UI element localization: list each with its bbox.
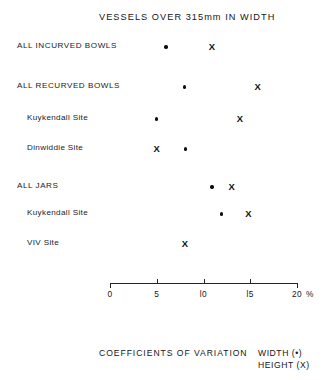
width-dot-marker xyxy=(159,39,173,55)
axis-tick xyxy=(204,279,205,284)
width-dot-marker xyxy=(178,79,192,95)
x-axis-caption: COEFFICIENTS OF VARIATION xyxy=(99,348,248,358)
height-x-marker: X xyxy=(205,39,219,55)
axis-tick xyxy=(297,283,298,288)
x-icon: X xyxy=(182,239,188,248)
chart-row: Dinwiddie SiteX xyxy=(0,141,329,157)
chart-row: ALL INCURVED BOWLSX xyxy=(0,39,329,55)
axis-tick-label: l5 xyxy=(247,289,254,299)
x-icon: X xyxy=(245,209,251,218)
height-x-marker: X xyxy=(225,179,239,195)
dot-icon xyxy=(184,147,187,150)
row-label: ALL JARS xyxy=(17,181,58,190)
axis-tick xyxy=(110,283,111,288)
height-x-marker: X xyxy=(178,236,192,252)
x-icon: X xyxy=(154,144,160,153)
dot-icon xyxy=(183,85,186,88)
chart-row: Kuykendall SiteX xyxy=(0,111,329,127)
axis-tick-label: 20 xyxy=(292,289,302,299)
row-label: Kuykendall Site xyxy=(27,113,88,122)
row-label: Dinwiddie Site xyxy=(27,143,83,152)
chart-root: VESSELS OVER 315mm IN WIDTH ALL INCURVED… xyxy=(0,0,329,380)
chart-row: VIV SiteX xyxy=(0,236,329,252)
height-x-marker: X xyxy=(251,79,265,95)
x-icon: X xyxy=(228,182,234,191)
axis-tick-label: 0 xyxy=(107,289,112,299)
width-dot-marker xyxy=(214,206,228,222)
x-axis: 05l0l520 % xyxy=(0,276,329,306)
legend-item-height: HEIGHT (X) xyxy=(258,360,310,372)
legend-item-width: WIDTH (•) xyxy=(258,348,310,360)
dot-icon xyxy=(220,212,223,215)
x-icon: X xyxy=(209,42,215,51)
axis-tick-label: l0 xyxy=(200,289,207,299)
row-label: ALL RECURVED BOWLS xyxy=(17,81,120,90)
row-label: VIV Site xyxy=(27,238,59,247)
axis-unit-label: % xyxy=(306,289,314,299)
chart-row: ALL JARSX xyxy=(0,179,329,195)
legend: WIDTH (•) HEIGHT (X) xyxy=(258,348,310,371)
row-label: Kuykendall Site xyxy=(27,208,88,217)
width-dot-marker xyxy=(205,179,219,195)
axis-tick xyxy=(157,279,158,284)
axis-tick xyxy=(250,279,251,284)
width-dot-marker xyxy=(150,111,164,127)
dot-icon xyxy=(164,45,167,48)
x-icon: X xyxy=(237,114,243,123)
dot-icon xyxy=(155,117,158,120)
dot-icon xyxy=(210,185,213,188)
chart-row: Kuykendall SiteX xyxy=(0,206,329,222)
chart-row: ALL RECURVED BOWLSX xyxy=(0,79,329,95)
height-x-marker: X xyxy=(150,141,164,157)
width-dot-marker xyxy=(179,141,193,157)
x-icon: X xyxy=(255,82,261,91)
axis-tick-label: 5 xyxy=(154,289,159,299)
chart-title: VESSELS OVER 315mm IN WIDTH xyxy=(99,12,275,22)
height-x-marker: X xyxy=(233,111,247,127)
row-label: ALL INCURVED BOWLS xyxy=(17,41,117,50)
height-x-marker: X xyxy=(241,206,255,222)
